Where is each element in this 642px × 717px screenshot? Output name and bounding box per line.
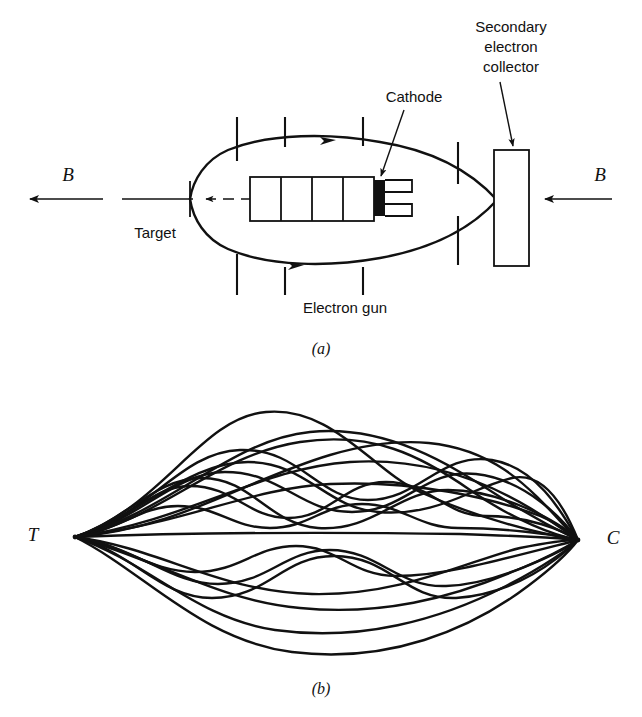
cathode-callout: Cathode bbox=[381, 88, 442, 176]
collector-label-line2: electron bbox=[484, 38, 537, 55]
focus-point-C bbox=[576, 538, 581, 543]
cathode-bar-upper bbox=[385, 180, 412, 192]
electron-gun-label: Electron gun bbox=[303, 299, 387, 316]
point-C-label: C bbox=[607, 527, 620, 548]
point-T-label: T bbox=[28, 524, 40, 545]
collector-leader-line bbox=[500, 82, 513, 146]
collector-callout: Secondary electron collector bbox=[475, 18, 547, 146]
trajectory-12 bbox=[75, 537, 578, 610]
trajectory-19 bbox=[75, 537, 578, 586]
cathode-block bbox=[374, 180, 385, 216]
physics-figure: B B Target bbox=[0, 0, 642, 717]
cathode-label: Cathode bbox=[386, 88, 443, 105]
collector-label-line3: collector bbox=[483, 58, 539, 75]
b-field-right-label: B bbox=[594, 164, 606, 185]
panel-a-caption: (a) bbox=[312, 340, 331, 358]
cathode-bar-lower bbox=[385, 204, 412, 216]
figure-canvas: B B Target bbox=[0, 0, 642, 717]
collector-label-line1: Secondary bbox=[475, 18, 547, 35]
collector-box bbox=[494, 150, 529, 266]
electron-gun-assembly bbox=[250, 177, 412, 221]
b-field-left-group: B bbox=[30, 164, 103, 199]
trajectory-bundle bbox=[75, 412, 578, 655]
target-label: Target bbox=[134, 224, 177, 241]
panel-a: B B Target bbox=[30, 18, 612, 358]
b-field-right-group: B bbox=[545, 164, 612, 199]
panel-b: T C bbox=[28, 412, 620, 698]
b-field-left-label: B bbox=[62, 164, 74, 185]
trajectory-9 bbox=[75, 533, 578, 540]
secondary-electron-collector bbox=[494, 150, 529, 266]
panel-b-caption: (b) bbox=[312, 680, 331, 698]
focus-point-T bbox=[73, 535, 78, 540]
trajectory-arrow-top bbox=[320, 137, 336, 145]
